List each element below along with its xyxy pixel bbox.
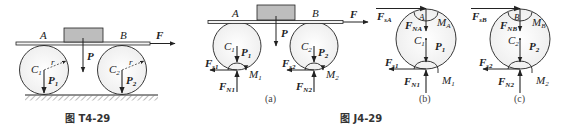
panel-c-label: (c) (514, 93, 525, 105)
label-M2: M2 (535, 74, 549, 88)
center-C1 (425, 38, 427, 40)
label-A: A (418, 12, 425, 22)
label-FN1: FN1 (218, 80, 235, 94)
label-M1: M1 (441, 74, 455, 88)
label-FN1: FN1 (403, 75, 420, 89)
label-Fs1: Fs1 (384, 56, 399, 70)
label-r2: r (129, 57, 133, 67)
label-P: P (281, 27, 288, 39)
figure-t4-29: A B F P C1 C2 r r P1 P2 图 T4-29 (16, 28, 175, 124)
label-A: A (39, 29, 47, 41)
panel-b: FsA A FNA MA C1 P1 Fs1 M1 FN1 (b) (376, 9, 456, 106)
label-P: P (87, 50, 94, 62)
label-MA: MA (436, 16, 451, 30)
label-FN2: FN2 (497, 75, 514, 89)
label-F: F (349, 8, 358, 20)
label-Fs2: Fs2 (478, 56, 493, 70)
label-F: F (155, 29, 164, 41)
caption-t4-29: 图 T4-29 (65, 113, 110, 124)
caption-j4-29: 图 J4-29 (340, 113, 382, 124)
panel-b-label: (b) (419, 93, 431, 105)
label-B: B (120, 29, 127, 41)
panel-c: FsB B FNB MB C2 P2 Fs2 M2 FN2 (c) (471, 9, 550, 106)
panel-a: A B F P C1 P1 Fs1 M1 FN1 C2 P2 Fs2 M2 FN… (204, 5, 368, 105)
label-B: B (514, 12, 520, 22)
label-FN2: FN2 (295, 80, 312, 94)
label-MB: MB (531, 16, 546, 30)
label-FsB: FsB (471, 10, 487, 24)
center-C2 (519, 38, 521, 40)
label-FsA: FsA (376, 10, 392, 24)
ground (25, 95, 158, 101)
label-A: A (231, 7, 239, 19)
panel-a-label: (a) (265, 93, 276, 105)
diagram-canvas: A B F P C1 C2 r r P1 P2 图 T4-29 A B F P … (0, 0, 569, 130)
label-M1: M1 (248, 68, 262, 82)
label-M2: M2 (325, 68, 339, 82)
label-r1: r (51, 57, 55, 67)
label-B: B (312, 7, 319, 19)
